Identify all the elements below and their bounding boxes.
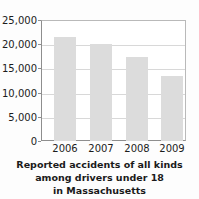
bar-2008 (126, 57, 148, 141)
bar-2009 (161, 76, 183, 141)
caption-line-1: Reported accidents of all kinds (0, 158, 199, 171)
y-tick-label-0: 0 (0, 136, 37, 147)
x-tick-label-2007: 2007 (83, 143, 119, 154)
x-axis-labels: 2006 2007 2008 2009 (41, 143, 186, 157)
y-tick-mark-0 (38, 141, 41, 142)
y-tick-label-25000: 25,000 (0, 15, 37, 26)
bars-layer (41, 20, 186, 141)
bar-2007 (90, 44, 112, 141)
x-tick-label-2009: 2009 (154, 143, 190, 154)
y-tick-label-20000: 20,000 (0, 39, 37, 50)
x-tick-label-2006: 2006 (47, 143, 83, 154)
y-tick-label-10000: 10,000 (0, 87, 37, 98)
caption-line-3: in Massachusetts (0, 184, 199, 197)
bar-chart-figure: 0 5,000 10,000 15,000 20,000 25,000 2006… (0, 0, 199, 199)
caption-line-2: among drivers under 18 (0, 171, 199, 184)
y-tick-label-5000: 5,000 (0, 111, 37, 122)
y-axis-labels: 0 5,000 10,000 15,000 20,000 25,000 (0, 20, 37, 141)
x-tick-label-2008: 2008 (119, 143, 155, 154)
bar-2006 (54, 37, 76, 141)
chart-caption: Reported accidents of all kinds among dr… (0, 158, 199, 197)
y-tick-label-15000: 15,000 (0, 63, 37, 74)
